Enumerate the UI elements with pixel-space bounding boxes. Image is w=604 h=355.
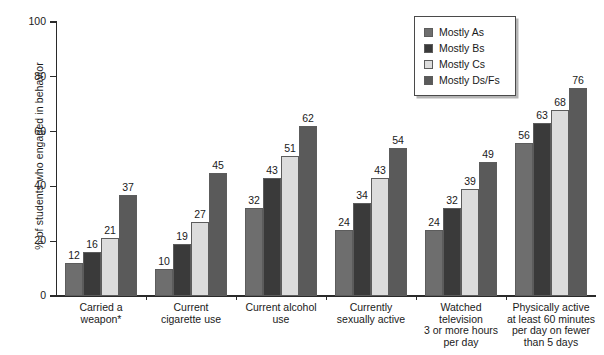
bar [245, 208, 263, 296]
bar-group: 24344354 [335, 22, 407, 296]
legend-swatch-icon [424, 60, 433, 69]
legend: Mostly AsMostly BsMostly CsMostly Ds/Fs [414, 16, 516, 96]
y-axis-title: % of students who engaged in behavior [33, 21, 45, 291]
y-tick-label-80: 80 [16, 70, 46, 82]
bar [551, 110, 569, 296]
bar [263, 178, 281, 296]
bar [101, 238, 119, 296]
bar [173, 244, 191, 296]
bar [425, 230, 443, 296]
bar-value-label: 45 [201, 159, 235, 171]
y-tick-label-20: 20 [16, 234, 46, 246]
legend-item: Mostly Bs [424, 40, 507, 56]
legend-swatch-icon [424, 76, 433, 85]
legend-label: Mostly Cs [439, 58, 485, 70]
bar-group: 56636876 [515, 22, 587, 296]
bar-group: 12162137 [65, 22, 137, 296]
bar [83, 252, 101, 296]
bar [371, 178, 389, 296]
x-label-line: than 5 days [493, 337, 604, 349]
bar [443, 208, 461, 296]
y-tick-label-60: 60 [16, 125, 46, 137]
legend-label: Mostly As [439, 26, 484, 38]
bar [209, 173, 227, 296]
bar [461, 189, 479, 296]
bar-value-label: 62 [291, 112, 325, 124]
legend-swatch-icon [424, 44, 433, 53]
bar-value-label: 54 [381, 134, 415, 146]
bar-chart: % of students who engaged in behavior 10… [0, 0, 604, 355]
legend-swatch-icon [424, 28, 433, 37]
bar [353, 203, 371, 296]
bar [569, 88, 587, 296]
bar-group: 32435162 [245, 22, 317, 296]
bar [65, 263, 83, 296]
bar [299, 126, 317, 296]
bar-value-label: 37 [111, 181, 145, 193]
legend-item: Mostly Cs [424, 56, 507, 72]
bar [515, 143, 533, 296]
bar [155, 269, 173, 296]
y-tick-label-100: 100 [16, 15, 46, 27]
legend-label: Mostly Ds/Fs [439, 74, 500, 86]
bar [533, 123, 551, 296]
legend-item: Mostly Ds/Fs [424, 72, 507, 88]
y-tick-label-40: 40 [16, 179, 46, 191]
legend-label: Mostly Bs [439, 42, 485, 54]
bar [479, 162, 497, 296]
bar [335, 230, 353, 296]
legend-item: Mostly As [424, 24, 507, 40]
bar [119, 195, 137, 296]
y-tick-label-0: 0 [16, 289, 46, 301]
bar [389, 148, 407, 296]
bar [281, 156, 299, 296]
x-label-line: Physically active [493, 302, 604, 314]
bar-value-label: 49 [471, 148, 505, 160]
bar [191, 222, 209, 296]
x-axis-label: Physically activeat least 60 minutesper … [493, 302, 604, 348]
bar-group: 10192745 [155, 22, 227, 296]
bar-value-label: 76 [561, 74, 595, 86]
